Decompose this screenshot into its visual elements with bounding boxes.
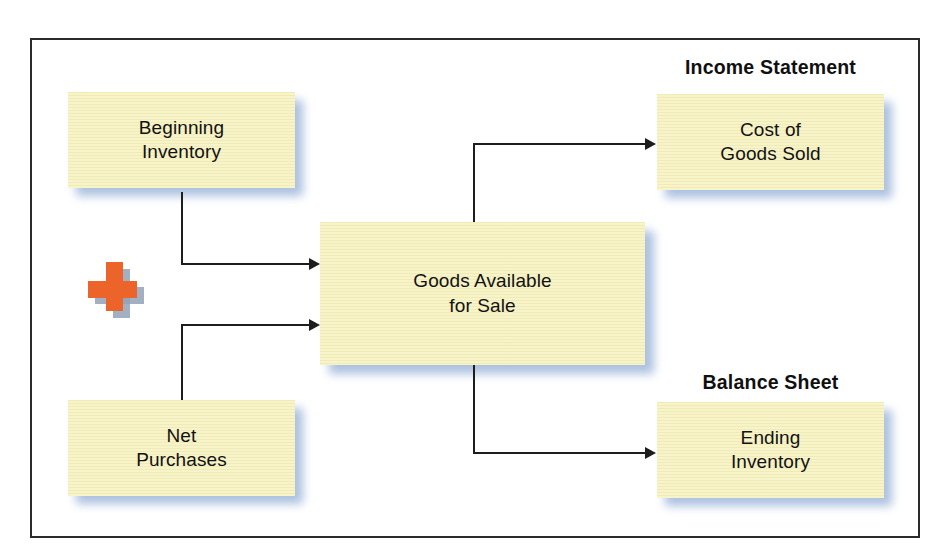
arrow-head-net-purchases	[309, 319, 320, 331]
connector-ending-inventory-vertical	[473, 364, 475, 454]
header-income-statement: Income Statement	[657, 56, 884, 79]
connector-beginning-inventory-horizontal	[181, 263, 311, 265]
connector-ending-inventory-horizontal	[473, 452, 647, 454]
net-purchases-line2: Purchases	[136, 449, 227, 470]
diagram-canvas: Beginning Inventory Net Purchases Goods …	[0, 0, 950, 559]
box-ending-inventory[interactable]: Ending Inventory	[657, 402, 884, 498]
goods-available-line2: for Sale	[449, 295, 515, 316]
arrow-head-cost-of-goods-sold	[645, 138, 656, 150]
box-cost-of-goods-sold[interactable]: Cost of Goods Sold	[657, 94, 884, 190]
ending-inventory-line2: Inventory	[731, 451, 810, 472]
goods-available-label: Goods Available for Sale	[413, 269, 551, 318]
connector-cogs-horizontal	[473, 143, 647, 145]
net-purchases-label: Net Purchases	[136, 424, 227, 473]
arrow-head-ending-inventory	[645, 447, 656, 459]
cost-of-goods-sold-line1: Cost of	[740, 119, 801, 140]
box-net-purchases[interactable]: Net Purchases	[68, 400, 295, 496]
beginning-inventory-line2: Inventory	[142, 141, 221, 162]
ending-inventory-label: Ending Inventory	[731, 426, 810, 475]
beginning-inventory-label: Beginning Inventory	[139, 116, 224, 165]
connector-cogs-vertical	[473, 144, 475, 224]
cost-of-goods-sold-line2: Goods Sold	[720, 143, 820, 164]
header-balance-sheet: Balance Sheet	[657, 371, 884, 394]
plus-bar-vertical	[106, 262, 123, 311]
connector-beginning-inventory-vertical	[181, 192, 183, 265]
goods-available-line1: Goods Available	[413, 270, 551, 291]
net-purchases-line1: Net	[167, 425, 197, 446]
beginning-inventory-line1: Beginning	[139, 117, 224, 138]
cost-of-goods-sold-label: Cost of Goods Sold	[720, 118, 820, 167]
connector-net-purchases-vertical	[181, 325, 183, 401]
ending-inventory-line1: Ending	[741, 427, 801, 448]
arrow-head-beginning-inventory	[309, 258, 320, 270]
plus-sign-icon	[88, 262, 144, 318]
box-beginning-inventory[interactable]: Beginning Inventory	[68, 92, 295, 188]
connector-net-purchases-horizontal	[181, 324, 311, 326]
box-goods-available-for-sale[interactable]: Goods Available for Sale	[320, 222, 645, 365]
